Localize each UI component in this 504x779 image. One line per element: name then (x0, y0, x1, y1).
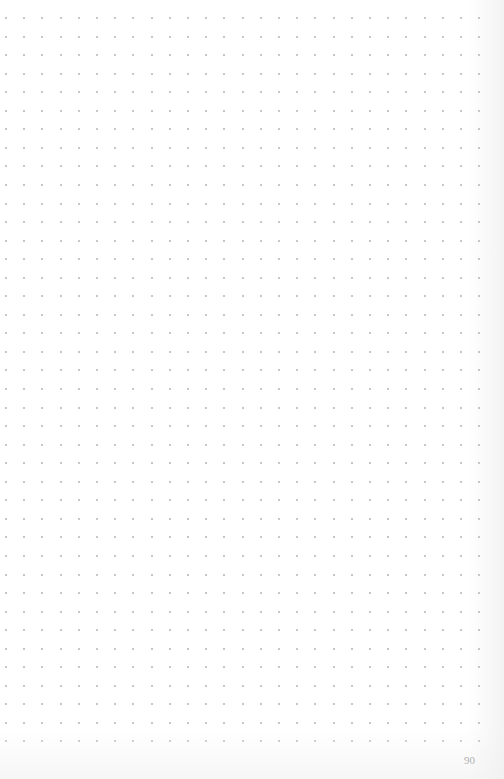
grid-dot (405, 203, 407, 205)
grid-dot (333, 407, 335, 409)
grid-dot (96, 240, 98, 242)
grid-dot (278, 128, 280, 130)
grid-dot (369, 740, 371, 742)
grid-dot (460, 221, 462, 223)
grid-dot (333, 629, 335, 631)
grid-dot (387, 518, 389, 520)
grid-dot (333, 648, 335, 650)
grid-dot (187, 666, 189, 668)
grid-dot (205, 110, 207, 112)
grid-dot (442, 629, 444, 631)
grid-dot (78, 91, 80, 93)
grid-dot (478, 462, 480, 464)
grid-dot (369, 444, 371, 446)
grid-dot (96, 17, 98, 19)
grid-dot (205, 314, 207, 316)
grid-dot (41, 203, 43, 205)
grid-dot (60, 425, 62, 427)
grid-dot (424, 722, 426, 724)
grid-dot (387, 611, 389, 613)
grid-dot (114, 165, 116, 167)
grid-dot (132, 592, 134, 594)
grid-dot (187, 73, 189, 75)
grid-dot (151, 574, 153, 576)
grid-dot (387, 444, 389, 446)
grid-dot (296, 221, 298, 223)
grid-dot (23, 574, 25, 576)
grid-dot (460, 425, 462, 427)
grid-dot (132, 481, 134, 483)
grid-dot (205, 425, 207, 427)
grid-dot (278, 314, 280, 316)
grid-dot (169, 685, 171, 687)
grid-dot (187, 574, 189, 576)
grid-dot (369, 165, 371, 167)
grid-dot (278, 36, 280, 38)
grid-dot (260, 258, 262, 260)
grid-dot (41, 740, 43, 742)
grid-dot (478, 611, 480, 613)
grid-dot (96, 611, 98, 613)
grid-dot (351, 536, 353, 538)
grid-dot (278, 499, 280, 501)
grid-dot (151, 91, 153, 93)
grid-dot (60, 481, 62, 483)
grid-dot (387, 165, 389, 167)
grid-dot (405, 110, 407, 112)
grid-dot (424, 221, 426, 223)
grid-dot (169, 91, 171, 93)
grid-dot (424, 128, 426, 130)
grid-dot (205, 351, 207, 353)
grid-dot (23, 555, 25, 557)
grid-dot (351, 36, 353, 38)
grid-dot (478, 277, 480, 279)
grid-dot (23, 332, 25, 334)
grid-dot (351, 110, 353, 112)
grid-dot (460, 314, 462, 316)
grid-dot (333, 592, 335, 594)
grid-dot (223, 555, 225, 557)
grid-dot (78, 128, 80, 130)
grid-dot (78, 36, 80, 38)
grid-dot (424, 351, 426, 353)
grid-dot (41, 332, 43, 334)
grid-dot (296, 128, 298, 130)
grid-dot (132, 369, 134, 371)
grid-dot (387, 592, 389, 594)
grid-dot (442, 462, 444, 464)
grid-dot (442, 36, 444, 38)
grid-dot (169, 240, 171, 242)
grid-dot (60, 203, 62, 205)
grid-dot (205, 703, 207, 705)
grid-dot (405, 258, 407, 260)
grid-dot (132, 740, 134, 742)
grid-dot (60, 221, 62, 223)
grid-dot (169, 332, 171, 334)
grid-dot (205, 574, 207, 576)
grid-dot (169, 203, 171, 205)
grid-dot (424, 481, 426, 483)
grid-dot (351, 147, 353, 149)
grid-dot (296, 110, 298, 112)
grid-dot (41, 17, 43, 19)
grid-dot (78, 740, 80, 742)
grid-dot (478, 648, 480, 650)
grid-dot (5, 36, 7, 38)
grid-dot (132, 722, 134, 724)
grid-dot (314, 184, 316, 186)
grid-dot (424, 703, 426, 705)
grid-dot (78, 184, 80, 186)
grid-dot (96, 73, 98, 75)
grid-dot (478, 295, 480, 297)
grid-dot (278, 369, 280, 371)
grid-dot (424, 147, 426, 149)
grid-dot (478, 518, 480, 520)
grid-dot (187, 740, 189, 742)
grid-dot (151, 369, 153, 371)
grid-dot (424, 536, 426, 538)
grid-dot (351, 703, 353, 705)
grid-dot (278, 536, 280, 538)
grid-dot (387, 481, 389, 483)
grid-dot (151, 685, 153, 687)
grid-dot (242, 592, 244, 594)
